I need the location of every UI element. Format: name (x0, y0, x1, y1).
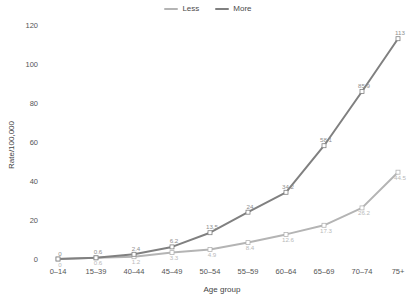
x-tick-0: 0–14 (50, 267, 67, 276)
data-point-label: 58.1 (320, 136, 333, 143)
data-point-marker (132, 252, 136, 256)
series-markers-more (56, 37, 400, 261)
data-point-label: 0 (58, 261, 62, 268)
y-tick-120: 120 (25, 21, 38, 30)
x-tick-1: 15–39 (86, 267, 107, 276)
data-point-label: 0.6 (94, 248, 103, 255)
data-point-label: 85.9 (358, 82, 371, 89)
series-labels-more: 00.62.46.213.52434.258.185.9113 (58, 29, 405, 256)
y-tick-40: 40 (30, 177, 38, 186)
x-tick-5: 55–59 (238, 267, 259, 276)
data-point-label: 8.4 (246, 244, 255, 251)
series-line-less (58, 172, 398, 259)
data-point-label: 34.2 (282, 183, 295, 190)
data-point-label: 44.5 (394, 174, 407, 181)
data-point-label: 6.2 (170, 237, 179, 244)
x-tick-6: 60–64 (276, 267, 297, 276)
x-tick-7: 65–69 (314, 267, 335, 276)
data-point-marker (284, 190, 288, 194)
x-axis-title: Age group (204, 285, 241, 294)
data-point-label: 1.2 (132, 258, 141, 265)
data-point-marker (360, 90, 364, 94)
data-point-marker (322, 144, 326, 148)
plot-area: 120 100 80 60 40 20 0 Rate/100,000 0–14 … (0, 0, 416, 301)
x-tick-4: 50–54 (200, 267, 221, 276)
data-point-label: 13.5 (206, 223, 219, 230)
y-tick-60: 60 (30, 138, 38, 147)
y-tick-100: 100 (25, 60, 38, 69)
y-tick-20: 20 (30, 216, 38, 225)
x-tick-3: 45–49 (162, 267, 183, 276)
data-point-label: 4.9 (208, 251, 217, 258)
x-axis-tick-labels: 0–14 15–39 40–44 45–49 50–54 55–59 60–64… (50, 267, 405, 276)
x-tick-9: 75+ (392, 267, 405, 276)
data-point-marker (208, 231, 212, 235)
data-point-label: 17.3 (320, 227, 333, 234)
data-point-label: 113 (395, 29, 405, 36)
series-markers-less (56, 170, 400, 261)
data-point-label: 3.3 (170, 254, 179, 261)
data-point-label: 24 (247, 203, 254, 210)
data-point-label: 12.6 (282, 236, 295, 243)
data-point-marker (246, 210, 250, 214)
line-chart: Less More 120 100 80 60 40 20 0 Rate/100… (0, 0, 416, 301)
y-axis-title: Rate/100,000 (7, 120, 16, 169)
y-axis-tick-labels: 120 100 80 60 40 20 0 (25, 21, 38, 264)
y-tick-80: 80 (30, 99, 38, 108)
data-point-label: 2.4 (132, 245, 141, 252)
data-point-marker (396, 37, 400, 41)
data-point-label: 0 (58, 250, 62, 257)
data-point-marker (170, 245, 174, 249)
data-point-label: 0.6 (94, 259, 103, 266)
y-tick-0: 0 (34, 255, 38, 264)
series-line-more (58, 39, 398, 259)
x-tick-2: 40–44 (124, 267, 145, 276)
data-point-label: 26.2 (358, 209, 371, 216)
x-tick-8: 70–74 (352, 267, 373, 276)
